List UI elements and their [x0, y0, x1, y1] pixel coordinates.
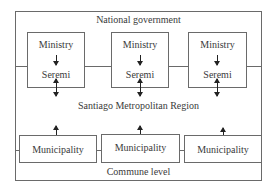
bidirectional-arrow-icon — [56, 79, 57, 96]
commune-level-label: Commune level — [15, 166, 262, 177]
bidirectional-arrow-icon — [217, 79, 218, 96]
connector-line — [169, 66, 188, 67]
ministry-label: Ministry — [112, 39, 168, 50]
municipality-label: Municipality — [185, 144, 261, 155]
ministry-label: Ministry — [189, 39, 246, 50]
municipality-box-2: Municipality — [101, 134, 180, 163]
connector-line — [85, 66, 111, 67]
ministry-label: Ministry — [28, 39, 84, 50]
down-arrow-icon — [56, 55, 57, 65]
bidirectional-arrow-icon — [140, 79, 141, 96]
municipality-label: Municipality — [102, 142, 179, 153]
region-label: Santiago Metropolitan Region — [15, 100, 262, 111]
down-arrow-icon — [140, 55, 141, 65]
connector-line — [247, 66, 262, 67]
municipality-label: Municipality — [20, 144, 96, 155]
connector-line — [15, 66, 27, 67]
down-arrow-icon — [217, 55, 218, 65]
municipality-box-1: Municipality — [19, 135, 97, 163]
national-government-label: National government — [15, 14, 262, 25]
municipality-box-3: Municipality — [184, 135, 262, 163]
